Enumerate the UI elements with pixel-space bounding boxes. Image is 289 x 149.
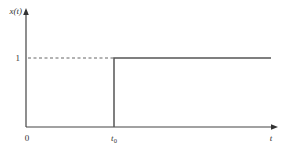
y-axis-arrow-icon (23, 8, 29, 15)
step-function-chart: x(t) t 0 1 t0 (0, 0, 289, 149)
y-axis-label: x(t) (9, 6, 23, 16)
x-axis-label: t (270, 133, 273, 143)
x-axis-arrow-icon (271, 124, 278, 130)
x-tick-label-t0: t0 (111, 133, 117, 144)
t0-subscript: 0 (114, 137, 117, 144)
origin-tick-label: 0 (25, 133, 30, 143)
y-tick-label-1: 1 (16, 53, 21, 63)
step-signal-line (114, 58, 271, 127)
